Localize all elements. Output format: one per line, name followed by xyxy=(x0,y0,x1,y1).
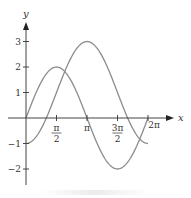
y-axis-arrow-icon xyxy=(23,22,29,30)
y-tick-label: −1 xyxy=(8,139,21,149)
y-tick-label: 3 xyxy=(15,37,21,47)
y-axis-label: y xyxy=(22,8,29,19)
chart: x y 321−1−2 π2π3π22π xyxy=(0,0,191,198)
x-tick-label-denominator: 2 xyxy=(115,134,121,144)
y-tick-label: −2 xyxy=(8,164,21,174)
page-shadow xyxy=(40,190,150,195)
x-tick-label: π xyxy=(84,123,90,133)
x-tick-label-denominator: 2 xyxy=(54,134,60,144)
x-tick-label-numerator: 3π xyxy=(112,123,124,133)
x-tick-label: 2π xyxy=(148,120,160,130)
y-tick-label: 2 xyxy=(15,62,21,72)
y-tick-label: 1 xyxy=(15,88,21,98)
curves xyxy=(26,42,148,170)
x-tick-label-numerator: π xyxy=(54,123,60,133)
x-axis-arrow-icon xyxy=(166,115,174,121)
x-axis-label: x xyxy=(178,112,184,123)
